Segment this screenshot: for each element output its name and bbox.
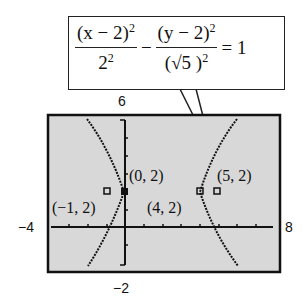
calculator-screen: [48, 115, 280, 272]
minus-sign: −: [141, 37, 152, 59]
term1-denominator: 2: [98, 53, 108, 74]
fraction-1: (x − 2)2 22: [75, 21, 137, 75]
point-label-4-2: (4, 2): [147, 199, 182, 217]
exp: 2: [129, 21, 135, 35]
fraction-2: (y − 2)2 (√5 )2: [156, 21, 218, 75]
point-label-neg1-2: (−1, 2): [52, 199, 96, 217]
xmin-label: −4: [18, 219, 34, 235]
equals-one: = 1: [221, 37, 246, 59]
xmax-label: 8: [285, 219, 293, 235]
point-label-5-2: (5, 2): [217, 167, 252, 185]
vertex-marker-0-2: [121, 188, 128, 195]
ymin-label: −2: [113, 280, 129, 296]
exp: 2: [209, 21, 215, 35]
point-label-0-2: (0, 2): [129, 167, 164, 185]
equation-callout: (x − 2)2 22 − (y − 2)2 (√5 )2 = 1: [68, 16, 285, 90]
ymax-label: 6: [118, 93, 126, 109]
equation: (x − 2)2 22 − (y − 2)2 (√5 )2 = 1: [75, 21, 250, 75]
exp: 2: [108, 51, 114, 65]
term2-numerator: (y − 2): [158, 22, 210, 43]
term1-numerator: (x − 2): [77, 22, 129, 43]
term2-denominator: (√5 ): [165, 53, 202, 74]
exp: 2: [202, 51, 208, 65]
